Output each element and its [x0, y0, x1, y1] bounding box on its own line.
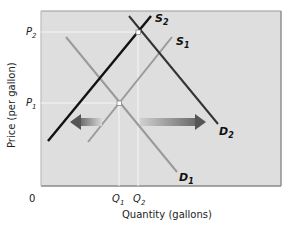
tick-q2: Q2: [133, 193, 146, 207]
y-axis-title: Price (per gallon): [6, 62, 17, 148]
equilibrium-point-1: [117, 101, 122, 106]
x-axis-title: Quantity (gallons): [122, 209, 212, 220]
supply-demand-chart: S2 S1 D2 D1 P2 P1 Q1 Q2 0 Quantity (gall…: [0, 0, 294, 231]
tick-q1: Q1: [112, 193, 124, 207]
plot-area: [41, 11, 281, 186]
origin-label: 0: [29, 193, 35, 204]
equilibrium-point-2: [136, 30, 141, 35]
tick-p2: P2: [26, 26, 37, 40]
tick-p1: P1: [26, 97, 37, 111]
